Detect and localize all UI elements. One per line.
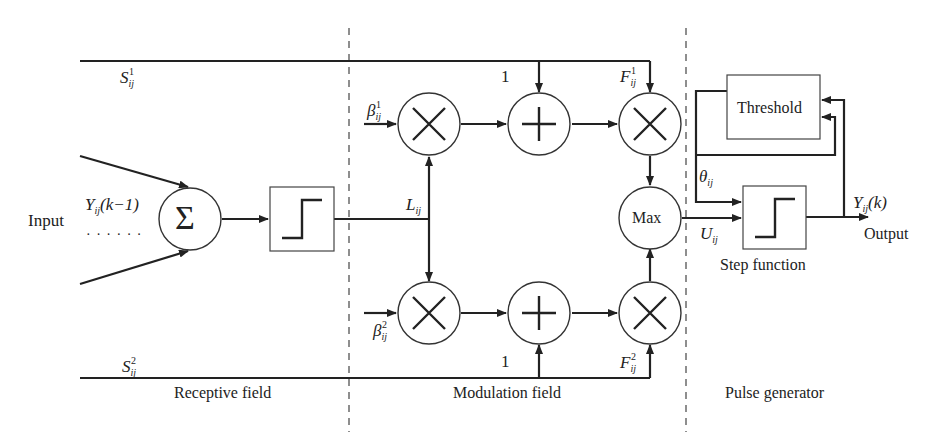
u-label: Uij	[700, 225, 718, 245]
f1-label: Fij1	[620, 66, 636, 88]
beta2-label: βij2	[373, 320, 387, 342]
output-signal-label: Yij(k)	[853, 194, 887, 214]
input-dots: · · · · · ·	[86, 228, 142, 242]
one-top-label: 1	[501, 68, 510, 85]
input-signal-label: Yij(k−1)	[85, 196, 139, 216]
input-arrow-top	[80, 156, 188, 187]
input-arrow-bottom	[80, 251, 188, 284]
s2-label: Sij2	[122, 356, 136, 378]
s1-label: Sij1	[120, 67, 134, 89]
output-label: Output	[864, 226, 908, 242]
max-label: Max	[632, 210, 661, 226]
f2-label: Fij2	[620, 352, 636, 374]
one-bottom-label: 1	[501, 353, 510, 370]
input-label: Input	[28, 212, 64, 229]
theta-label: θij	[699, 168, 713, 188]
beta1-label: βij1	[367, 100, 381, 122]
l-label: Lij	[406, 196, 421, 216]
region-modulation-caption: Modulation field	[453, 385, 561, 401]
diagram-canvas	[0, 0, 951, 442]
sigma-symbol: Σ	[175, 201, 195, 235]
region-pulse-caption: Pulse generator	[725, 385, 824, 401]
region-receptive-caption: Receptive field	[174, 385, 271, 401]
step-function-label: Step function	[720, 257, 806, 273]
threshold-label: Threshold	[737, 100, 802, 116]
